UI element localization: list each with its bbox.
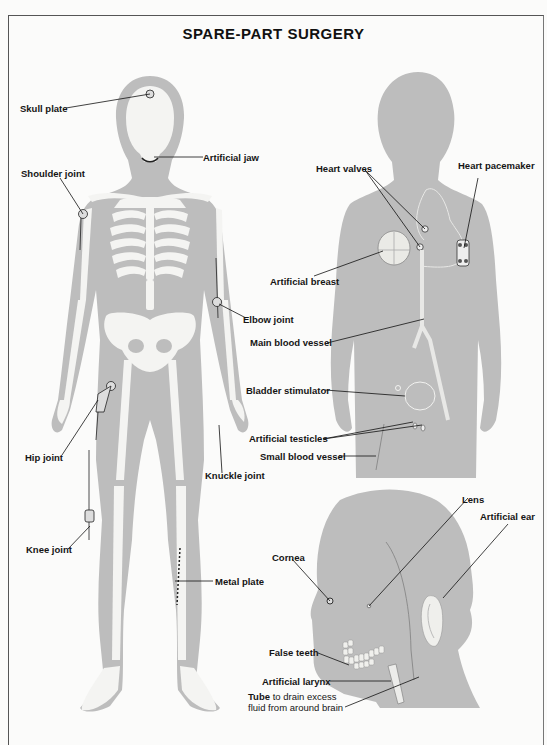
label-drain-tube-line2: fluid from around brain: [248, 702, 343, 713]
label-artificial-jaw: Artificial jaw: [203, 152, 259, 163]
torso-figure: [314, 72, 501, 478]
label-drain-tube-line1: to drain excess: [270, 691, 337, 702]
label-artificial-ear: Artificial ear: [480, 511, 535, 522]
label-cornea: Cornea: [272, 552, 305, 563]
label-heart-valves: Heart valves: [316, 163, 372, 174]
label-hip-joint: Hip joint: [25, 452, 63, 463]
label-drain-tube: Tube to drain excess fluid from around b…: [248, 691, 343, 713]
label-knee-joint: Knee joint: [26, 544, 72, 555]
label-knuckle-joint: Knuckle joint: [205, 470, 265, 481]
label-elbow-joint: Elbow joint: [243, 314, 294, 325]
label-bladder-stimulator: Bladder stimulator: [246, 385, 330, 396]
label-lens: Lens: [462, 494, 484, 505]
label-skull-plate: Skull plate: [20, 103, 68, 114]
label-main-blood-vessel: Main blood vessel: [250, 337, 332, 348]
label-artificial-larynx: Artificial larynx: [262, 676, 331, 687]
label-small-blood-vessel: Small blood vessel: [260, 451, 346, 462]
label-shoulder-joint: Shoulder joint: [21, 168, 85, 179]
label-artificial-breast: Artificial breast: [270, 276, 339, 287]
label-heart-pacemaker: Heart pacemaker: [458, 160, 535, 171]
label-drain-tube-bold: Tube: [248, 691, 270, 702]
label-artificial-testicles: Artificial testicles: [249, 433, 328, 444]
label-metal-plate: Metal plate: [215, 576, 264, 587]
label-false-teeth: False teeth: [269, 647, 319, 658]
